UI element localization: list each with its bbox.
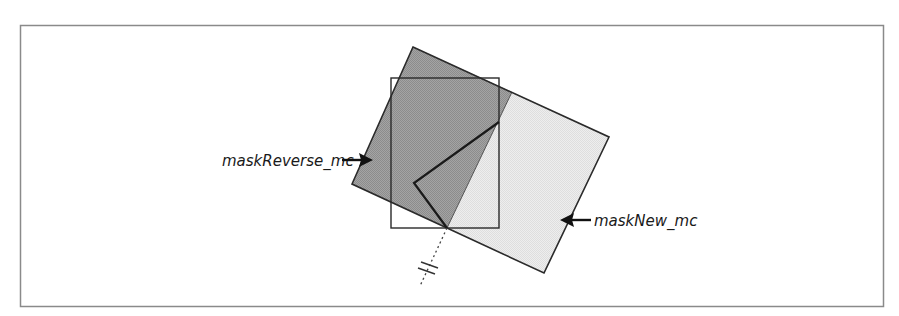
mask-new-label: maskNew_mc bbox=[594, 212, 698, 231]
mask-reverse-label: maskReverse_mc bbox=[222, 152, 354, 171]
mask-diagram: maskReverse_mc maskNew_mc bbox=[0, 0, 899, 316]
